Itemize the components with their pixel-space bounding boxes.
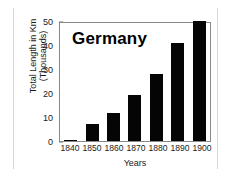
plot-area: Germany [59,22,211,142]
x-axis-tick-labels: 1840185018601870188018901900 [59,144,211,156]
y-tick-label: 30 [43,66,53,75]
bar-1850 [86,124,99,141]
page-edge-right [217,8,218,169]
y-tick-label: 20 [43,90,53,99]
x-tick-label: 1870 [125,144,147,156]
y-tick-label: 0 [48,138,53,147]
x-tick-label: 1840 [59,144,81,156]
bar-series [60,23,210,141]
bar-1880 [150,74,163,141]
y-tick-label: 10 [43,114,53,123]
bar-1890 [171,43,184,141]
y-tick-label: 50 [43,18,53,27]
bar-1900 [193,21,206,141]
y-axis-tick-labels: 01020304050 [0,22,57,142]
x-tick-label: 1890 [169,144,191,156]
chart-figure: Total Length in Km (Thousands) 010203040… [0,0,229,177]
bar-1860 [107,113,120,141]
bar-1870 [128,95,141,141]
x-axis-title: Years [59,159,211,168]
y-tick-label: 40 [43,42,53,51]
x-tick-label: 1860 [103,144,125,156]
x-tick-label: 1880 [147,144,169,156]
x-tick-label: 1850 [81,144,103,156]
bar-1840 [64,140,77,141]
x-tick-label: 1900 [191,144,213,156]
